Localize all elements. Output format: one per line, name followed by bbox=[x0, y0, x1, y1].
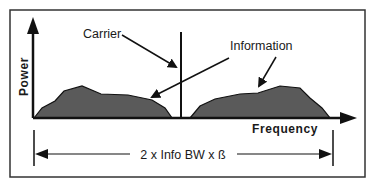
spectrum-diagram: Carrier Information Power Frequency 2 x … bbox=[0, 0, 376, 187]
bandwidth-right-arrowhead-icon bbox=[319, 149, 332, 159]
lower-sideband-lobe bbox=[34, 86, 172, 118]
carrier-pointer-arrow bbox=[122, 35, 176, 67]
x-axis-arrowhead-icon bbox=[340, 112, 357, 124]
information-pointer-lower bbox=[152, 58, 229, 97]
carrier-label: Carrier bbox=[83, 27, 121, 41]
y-axis-arrowhead-icon bbox=[27, 17, 39, 34]
bandwidth-label: 2 x Info BW x ß bbox=[140, 148, 226, 162]
x-axis-label: Frequency bbox=[252, 122, 318, 136]
bandwidth-left-arrowhead-icon bbox=[35, 149, 48, 159]
y-axis-label: Power bbox=[17, 57, 31, 96]
information-label: Information bbox=[230, 39, 293, 53]
information-pointer-upper bbox=[259, 57, 276, 86]
upper-sideband-lobe bbox=[190, 86, 330, 118]
